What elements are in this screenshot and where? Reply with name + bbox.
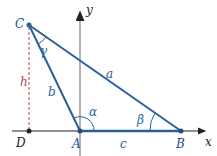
triangle-diagram: C A B D a b c h α β γ y x [0, 0, 217, 156]
side-b [29, 25, 80, 131]
label-angle-beta: β [136, 113, 144, 127]
label-side-a: a [106, 67, 113, 81]
label-side-b: b [48, 85, 56, 99]
label-height-h: h [20, 75, 28, 89]
label-axis-y: y [85, 3, 93, 17]
side-a [29, 25, 181, 131]
point-B [179, 129, 184, 134]
point-C [27, 23, 32, 28]
point-D [27, 129, 32, 134]
point-A [78, 129, 83, 134]
label-D: D [15, 136, 26, 150]
label-angle-alpha: α [89, 105, 97, 119]
label-side-c: c [120, 137, 127, 151]
angle-gamma-arc [38, 37, 46, 44]
label-axis-x: x [205, 135, 212, 149]
label-B: B [175, 137, 185, 151]
label-angle-gamma: γ [40, 44, 48, 58]
label-C: C [15, 17, 24, 31]
label-A: A [71, 137, 81, 151]
angle-beta-arc [150, 113, 155, 131]
